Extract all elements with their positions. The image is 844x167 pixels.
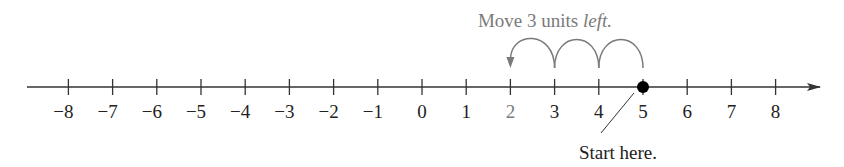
tick-label--8: −8 [53,101,73,122]
tick-label-7: 7 [727,101,737,122]
number-line-figure: Move 3 units left. −8−7−6−5−4−3−2−101234… [0,0,844,167]
tick-label--6: −6 [142,101,162,122]
annotation-move-left: Move 3 units left. [478,10,612,31]
tick-label-2: 2 [506,101,516,122]
jump-arc-3-to-2 [510,38,554,68]
tick-label-5: 5 [638,101,648,122]
filled-circle-icon [637,81,649,93]
tick-label-8: 8 [771,101,781,122]
jump-arc-4-to-3 [555,40,599,69]
start-pointer-line [601,93,634,133]
tick-label--7: −7 [97,101,117,122]
tick-label-6: 6 [682,101,692,122]
tick-label--1: −1 [363,101,383,122]
number-line-svg: Move 3 units left. −8−7−6−5−4−3−2−101234… [0,0,844,167]
tick-label--3: −3 [274,101,294,122]
tick-label--2: −2 [318,101,338,122]
jump-arc-5-to-4 [599,40,643,69]
axis-tick-labels: −8−7−6−5−4−3−2−1012345678 [53,101,780,122]
annotation-start-here: Start here. [579,142,657,163]
jump-arcs [510,38,643,68]
tick-label-0: 0 [417,101,427,122]
tick-label-1: 1 [461,101,471,122]
tick-label-3: 3 [550,101,560,122]
tick-label--4: −4 [230,101,251,122]
tick-label-4: 4 [594,101,604,122]
arrowhead-left-icon [506,57,514,68]
tick-label--5: −5 [186,101,206,122]
